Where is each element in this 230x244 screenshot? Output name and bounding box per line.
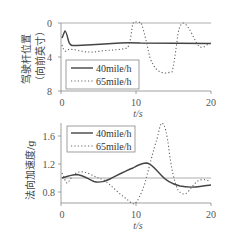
top-chart: 驾驶杆位置 （向前英寸） 0 4 8 0 10 20 t/s 40mile/h … — [20, 18, 216, 119]
top-ytick-label: 0 — [47, 18, 52, 29]
top-legend: 40mile/h 65mile/h — [66, 60, 139, 89]
bottom-ytick-label: 0.8 — [43, 187, 56, 198]
bottom-series-40mph — [62, 163, 211, 187]
top-y-label-line1: 驾驶杆位置 — [20, 34, 32, 84]
bottom-xtick-label: 0 — [60, 209, 65, 220]
top-series-40mph — [62, 31, 211, 46]
bottom-chart: 法向加速度/g 1.6 1.2 0.8 0 10 20 t/s 40mile/h… — [24, 123, 216, 231]
top-xtick-label: 0 — [60, 97, 65, 108]
top-xtick-label: 20 — [206, 97, 216, 108]
top-y-label-line2: （向前英寸） — [34, 26, 46, 86]
bottom-ytick-label: 1.6 — [43, 131, 56, 142]
bottom-legend: 40mile/h 65mile/h — [67, 126, 135, 152]
top-xtick-label: 10 — [131, 97, 141, 108]
top-ytick-label: 8 — [47, 86, 52, 97]
bottom-y-label: 法向加速度/g — [24, 140, 36, 200]
bottom-ytick-label: 1.2 — [43, 159, 56, 170]
legend-label-40mph: 40mile/h — [96, 128, 132, 139]
legend-label-65mph: 65mile/h — [96, 76, 132, 87]
bottom-xtick-label: 10 — [131, 209, 141, 220]
bottom-xtick-label: 20 — [206, 209, 216, 220]
bottom-x-axis-label: t/s — [133, 220, 143, 231]
figure-canvas: 驾驶杆位置 （向前英寸） 0 4 8 0 10 20 t/s 40mile/h … — [0, 0, 230, 244]
top-x-axis-label: t/s — [133, 108, 143, 119]
top-ytick-label: 4 — [47, 52, 52, 63]
legend-label-40mph: 40mile/h — [96, 63, 132, 74]
legend-label-65mph: 65mile/h — [96, 141, 132, 152]
